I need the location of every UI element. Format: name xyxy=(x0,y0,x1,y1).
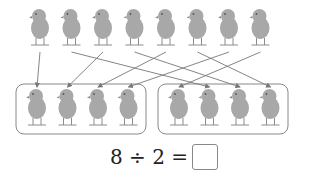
division-equation: 8 ÷ 2 = xyxy=(110,144,218,170)
distribution-arrow xyxy=(37,52,40,87)
top-chick xyxy=(29,9,49,45)
distribution-arrow xyxy=(179,52,261,87)
grouped-chick xyxy=(26,89,46,125)
top-chick xyxy=(61,9,81,45)
top-chick xyxy=(218,9,238,45)
distribution-arrow xyxy=(129,52,230,87)
distribution-arrow xyxy=(72,52,210,87)
top-chick xyxy=(187,9,207,45)
distribution-arrow xyxy=(198,52,271,87)
distribution-arrow xyxy=(98,52,166,87)
grouped-chick xyxy=(168,89,188,125)
distribution-arrow xyxy=(68,52,104,87)
grouped-chick xyxy=(118,89,138,125)
top-chick xyxy=(155,9,175,45)
top-chick xyxy=(250,9,270,45)
answer-box[interactable] xyxy=(192,144,218,170)
equation-text: 8 ÷ 2 = xyxy=(110,145,188,169)
grouped-chick xyxy=(199,89,219,125)
grouped-chick xyxy=(87,89,107,125)
grouped-chick xyxy=(260,89,280,125)
grouped-chick xyxy=(57,89,77,125)
grouped-chick xyxy=(229,89,249,125)
top-chick xyxy=(92,9,112,45)
top-chick xyxy=(124,9,144,45)
